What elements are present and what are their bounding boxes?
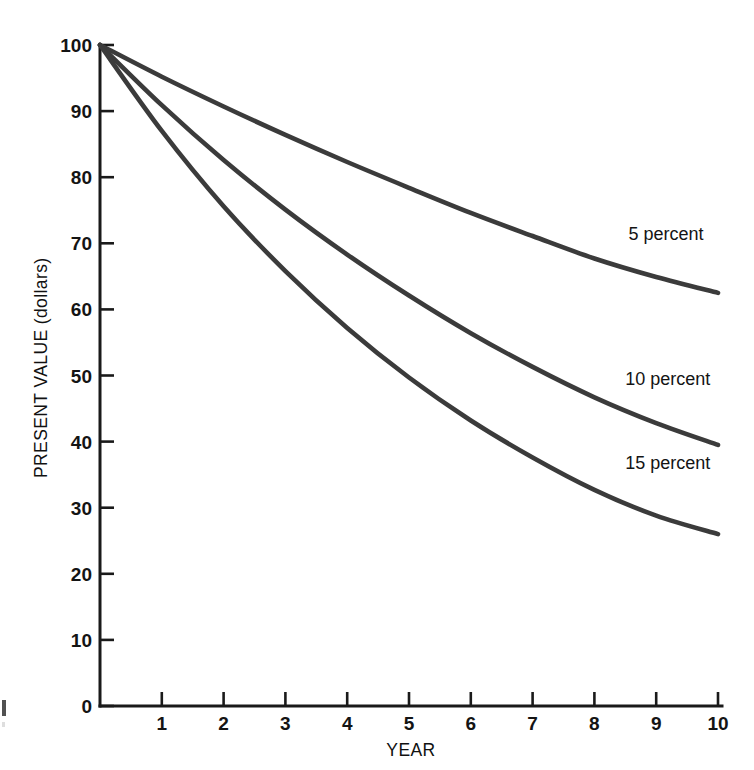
y-tick-label: 90: [71, 101, 92, 122]
y-tick-label: 30: [71, 498, 92, 519]
y-axis-title: PRESENT VALUE (dollars): [31, 257, 51, 478]
y-tick-label: 0: [81, 696, 92, 717]
x-axis-ticks: 12345678910: [157, 692, 729, 734]
x-tick-label: 2: [218, 713, 229, 734]
series-label-5-percent: 5 percent: [628, 224, 703, 244]
y-axis-ticks: 0102030405060708090100: [60, 35, 114, 717]
x-tick-label: 4: [342, 713, 353, 734]
series-label-10-percent: 10 percent: [625, 369, 710, 389]
x-axis-title: YEAR: [386, 740, 435, 760]
y-tick-label: 100: [60, 35, 92, 56]
x-tick-label: 9: [651, 713, 662, 734]
y-tick-label: 60: [71, 299, 92, 320]
y-tick-label: 10: [71, 630, 92, 651]
present-value-line-chart: 0102030405060708090100 12345678910 5 per…: [0, 0, 754, 770]
scan-artifact-mark-secondary: [2, 722, 5, 727]
y-tick-label: 50: [71, 366, 92, 387]
y-tick-label: 40: [71, 432, 92, 453]
x-tick-label: 3: [280, 713, 291, 734]
y-tick-label: 20: [71, 564, 92, 585]
y-tick-label: 80: [71, 167, 92, 188]
y-tick-label: 70: [71, 233, 92, 254]
chart-figure: 0102030405060708090100 12345678910 5 per…: [0, 0, 754, 770]
series-label-15-percent: 15 percent: [625, 453, 710, 473]
x-tick-label: 7: [527, 713, 538, 734]
x-tick-label: 6: [466, 713, 477, 734]
x-tick-label: 5: [404, 713, 415, 734]
x-tick-label: 8: [589, 713, 600, 734]
x-tick-label: 1: [157, 713, 168, 734]
scan-artifact-mark: [2, 700, 6, 716]
x-tick-label: 10: [707, 713, 728, 734]
